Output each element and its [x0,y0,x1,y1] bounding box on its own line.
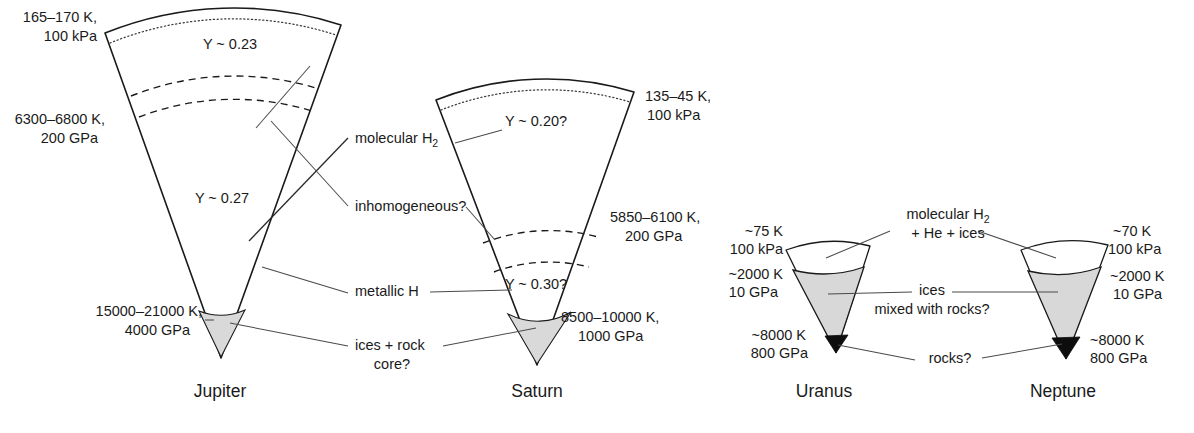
neptune-core-pressure: 800 GPa [1090,350,1148,366]
leader-metallic-h-jupiter [262,267,348,293]
saturn-helium-outer: Y ~ 0.20? [505,113,567,129]
neptune-core-temp: ~8000 K [1090,332,1145,348]
callout-ices-rock-core-line1: ices + rock [355,337,425,353]
saturn-helium-inner: Y ~ 0.30? [505,276,567,292]
callout-molecular-h2-ice-text: molecular H [906,206,983,222]
callout-molecular-h2-ice: molecular H2 [906,206,989,225]
planet-name-jupiter: Jupiter [194,381,247,401]
jupiter-middle-pressure: 200 GPa [41,130,99,146]
neptune-rock-core [1052,337,1080,359]
saturn-middle-temp: 5850–6100 K, [610,209,700,225]
callout-ices: ices [919,282,945,298]
callout-inhomogeneous: inhomogeneous? [355,198,466,214]
jupiter-middle-temp: 6300–6800 K, [15,111,105,127]
center-callouts-ice-giants: molecular H2 + He + ices ices mixed with… [874,206,989,366]
saturn-surface-pressure: 100 kPa [647,107,701,123]
uranus-surface-pressure: 100 kPa [730,241,784,257]
planet-name-labels: Jupiter Saturn Uranus Neptune [194,381,1096,401]
uranus-rock-core [825,335,848,353]
leader-rocks-uranus [838,345,915,360]
neptune-ice-pressure: 10 GPa [1113,286,1163,302]
uranus-ice-temp: ~2000 K [729,266,784,282]
center-callouts: molecular H2 inhomogeneous? metallic H i… [355,130,466,372]
callout-molecular-h2: molecular H2 [355,130,438,149]
jupiter-helium-inner: Y ~ 0.27 [195,190,249,206]
callout-molecular-h2-text: molecular H [355,130,432,146]
saturn-core-temp: 8500–10000 K, [561,309,659,325]
diagram-canvas: Jupiter Saturn Uranus Neptune 165–170 K,… [0,0,1194,433]
leader-metallic-h-saturn [430,290,512,292]
uranus-core-pressure: 800 GPa [751,345,809,361]
neptune-surface-temp: ~70 K [1113,223,1152,239]
giant-planet-interiors-diagram: Jupiter Saturn Uranus Neptune 165–170 K,… [0,0,1194,433]
jupiter-core-shade [199,310,245,357]
uranus-core-temp: ~8000 K [752,327,807,343]
saturn-core-pressure: 1000 GPa [578,328,644,344]
jupiter-core-pressure: 4000 GPa [125,322,191,338]
neptune-surface-pressure: 100 kPa [1108,241,1162,257]
neptune-ice-temp: ~2000 K [1110,268,1165,284]
jupiter-core-temp: 15000–21000 K, [96,303,202,319]
planet-name-saturn: Saturn [511,381,563,401]
callout-metallic-h: metallic H [355,283,419,299]
jupiter-helium-outer: Y ~ 0.23 [203,36,257,52]
callout-he-ices: + He + ices [911,225,984,241]
leader-rocks-neptune [982,344,1062,358]
uranus-ice-pressure: 10 GPa [729,284,779,300]
callout-ices-rock-core-line2: core? [374,356,410,372]
callout-rocks: rocks? [929,350,972,366]
jupiter-surface-pressure: 100 kPa [44,28,98,44]
leader-ices-rock-jupiter [230,323,348,346]
saturn-middle-pressure: 200 GPa [625,228,683,244]
callout-mixed-with-rocks: mixed with rocks? [874,301,989,317]
planet-name-uranus: Uranus [796,381,853,401]
callout-molecular-h2-ice-subscript: 2 [984,213,990,225]
planet-name-neptune: Neptune [1030,381,1096,401]
callout-molecular-h2-subscript: 2 [432,137,438,149]
uranus-labels: ~75 K 100 kPa ~2000 K 10 GPa ~8000 K 800… [729,223,809,361]
saturn-surface-temp: 135–45 K, [645,88,711,104]
uranus-surface-temp: ~75 K [745,223,784,239]
jupiter-surface-temp: 165–170 K, [23,9,97,25]
